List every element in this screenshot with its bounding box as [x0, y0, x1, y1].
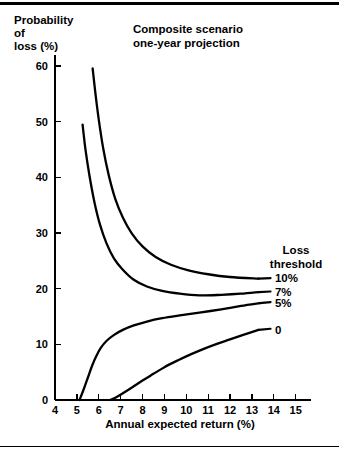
leader-line-10pct — [258, 278, 270, 279]
leader-line-0 — [258, 329, 270, 330]
series-curve-7pct — [83, 125, 259, 296]
figure-container: Probability of loss (%) Composite scenar… — [0, 0, 339, 451]
legend-label-10pct: 10% — [275, 272, 298, 284]
chart-title-line1: Composite scenario — [133, 23, 243, 35]
x-tick-label: 5 — [74, 404, 80, 416]
legend-label-5pct: 5% — [275, 297, 292, 309]
probability-of-loss-line-chart: Probability of loss (%) Composite scenar… — [0, 0, 339, 451]
x-axis-label: Annual expected return (%) — [105, 418, 255, 430]
chart-title-line2: one-year projection — [133, 37, 240, 49]
legend-title-line1: Loss — [283, 244, 310, 256]
series-curves-group — [80, 68, 260, 400]
x-tick-label: 4 — [52, 404, 59, 416]
x-axis-ticks: 456789101112131415 — [52, 394, 302, 416]
axes-group — [55, 55, 311, 400]
x-tick-label: 12 — [224, 404, 236, 416]
y-axis-label-line3: loss (%) — [14, 40, 58, 52]
x-tick-label: 6 — [96, 404, 102, 416]
legend-title-line2: threshold — [270, 258, 322, 270]
x-tick-label: 15 — [290, 404, 302, 416]
x-tick-label: 11 — [202, 404, 214, 416]
x-tick-label: 10 — [180, 404, 192, 416]
y-tick-label: 40 — [36, 171, 48, 183]
legend-leader-lines-group — [258, 278, 270, 330]
legend-labels-group: 10%7%5%0 — [275, 272, 298, 336]
y-axis-ticks: 0102030405060 — [36, 60, 61, 406]
x-tick-label: 13 — [246, 404, 258, 416]
series-curve-10pct — [93, 68, 259, 278]
y-tick-label: 50 — [36, 116, 48, 128]
x-tick-label: 9 — [161, 404, 167, 416]
x-tick-label: 8 — [139, 404, 145, 416]
x-tick-label: 7 — [118, 404, 124, 416]
y-tick-label: 20 — [36, 283, 48, 295]
series-curve-5pct — [80, 303, 260, 400]
x-tick-label: 14 — [268, 404, 281, 416]
leader-line-7pct — [258, 291, 270, 292]
y-tick-label: 10 — [36, 338, 48, 350]
legend-label-0: 0 — [275, 324, 281, 336]
series-curve-0 — [110, 330, 258, 400]
y-axis-label-line1: Probability — [14, 14, 74, 26]
y-tick-label: 60 — [36, 60, 48, 72]
y-tick-label: 30 — [36, 227, 48, 239]
y-axis-label-line2: of — [14, 27, 25, 39]
y-tick-label: 0 — [42, 394, 48, 406]
leader-line-5pct — [260, 302, 271, 303]
